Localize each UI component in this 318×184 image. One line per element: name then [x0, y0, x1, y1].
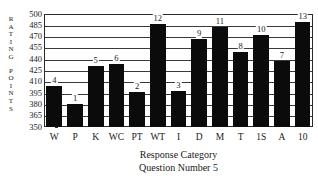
y-axis-tick-label: 485 — [18, 21, 42, 30]
x-axis-captions: Response Category Question Number 5 — [44, 148, 313, 174]
bar-slot: 8 — [230, 14, 251, 127]
bar — [191, 39, 207, 127]
y-axis-title-letter: S — [9, 106, 13, 114]
bar-slot: 3 — [168, 14, 189, 127]
x-axis-tick-label: WC — [106, 131, 127, 143]
bar-slot: 6 — [106, 14, 127, 127]
bar-slot: 7 — [272, 14, 293, 127]
x-axis-tick-label: 10 — [292, 131, 313, 143]
bar-value-label: 7 — [279, 51, 285, 60]
bar — [274, 61, 290, 127]
bar-slot: 10 — [251, 14, 272, 127]
x-axis-tick-label: WT — [147, 131, 168, 143]
bar-slot: 12 — [147, 14, 168, 127]
y-axis-tick-label: 350 — [18, 123, 42, 132]
bar — [233, 52, 249, 127]
x-axis-tick-label: 1S — [251, 131, 272, 143]
bar — [150, 24, 166, 127]
bar-value-label: 3 — [175, 81, 181, 90]
bar-value-label: 5 — [93, 56, 99, 65]
bar-value-label: 9 — [196, 29, 202, 38]
x-axis-title: Response Category — [44, 148, 313, 161]
bars-container: 41562123911810713 — [44, 14, 313, 127]
bar-value-label: 13 — [297, 12, 308, 21]
y-axis-title-letter: G — [8, 54, 13, 62]
y-axis-tick-label: 425 — [18, 66, 42, 75]
bar — [212, 27, 228, 127]
bar — [171, 91, 187, 127]
bar — [109, 64, 125, 127]
bar — [67, 104, 83, 127]
y-axis-tick-labels: 350365380395410425440455470485500 — [14, 14, 42, 127]
x-axis-tick-label: T — [230, 131, 251, 143]
bar-value-label: 4 — [51, 76, 57, 85]
bar — [295, 22, 311, 127]
bar-slot: 1 — [65, 14, 86, 127]
x-axis-tick-label: PT — [127, 131, 148, 143]
bar-value-label: 12 — [153, 14, 164, 23]
x-axis-tick-labels: WPKWCPTWTIDMT1SA10 — [44, 131, 313, 147]
bar-value-label: 11 — [215, 17, 225, 26]
y-axis-tick-label: 440 — [18, 55, 42, 64]
bar-slot: 2 — [127, 14, 148, 127]
x-axis-tick-label: P — [65, 131, 86, 143]
x-axis-subtitle: Question Number 5 — [44, 161, 313, 174]
bar-value-label: 2 — [134, 82, 140, 91]
x-axis-tick-label: I — [168, 131, 189, 143]
x-axis-tick-label: K — [85, 131, 106, 143]
bar-slot: 4 — [44, 14, 65, 127]
bar-chart: RATINGPOINTS 350365380395410425440455470… — [0, 0, 318, 184]
x-axis-tick-label: A — [272, 131, 293, 143]
bar — [253, 35, 269, 127]
bar — [129, 92, 145, 127]
y-axis-tick-mark — [55, 127, 58, 128]
y-axis-tick-label: 500 — [18, 10, 42, 19]
bar-slot: 9 — [189, 14, 210, 127]
bar-slot: 11 — [210, 14, 231, 127]
x-axis-tick-label: M — [210, 131, 231, 143]
y-axis-tick-label: 470 — [18, 32, 42, 41]
x-axis-tick-label: D — [189, 131, 210, 143]
bar — [88, 66, 104, 127]
bar-value-label: 1 — [72, 94, 78, 103]
bar-value-label: 10 — [256, 25, 267, 34]
bar-value-label: 8 — [237, 42, 243, 51]
bar — [46, 86, 62, 127]
bar-value-label: 6 — [113, 54, 119, 63]
x-axis-tick-label: W — [44, 131, 65, 143]
y-axis-tick-label: 395 — [18, 89, 42, 98]
y-axis-tick-label: 380 — [18, 100, 42, 109]
y-axis-tick-label: 455 — [18, 43, 42, 52]
y-axis-tick-label: 365 — [18, 111, 42, 120]
bar-slot: 5 — [85, 14, 106, 127]
y-axis-tick-label: 410 — [18, 77, 42, 86]
bar-slot: 13 — [292, 14, 313, 127]
